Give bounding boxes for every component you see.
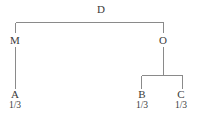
- node-label-leaf-a: A: [11, 89, 19, 100]
- node-share-leaf-b: 1/3: [136, 101, 148, 111]
- node-share-leaf-c: 1/3: [175, 101, 187, 111]
- tree-connector-lines: [0, 0, 202, 118]
- node-label-branch-right: O: [159, 35, 167, 46]
- node-label-leaf-b: B: [138, 89, 145, 100]
- node-share-leaf-a: 1/3: [9, 101, 21, 111]
- node-label-root: D: [97, 4, 105, 15]
- node-label-leaf-c: C: [177, 89, 184, 100]
- node-label-branch-left: M: [10, 35, 20, 46]
- inheritance-tree-diagram: D M O A 1/3 B 1/3 C 1/3: [0, 0, 202, 118]
